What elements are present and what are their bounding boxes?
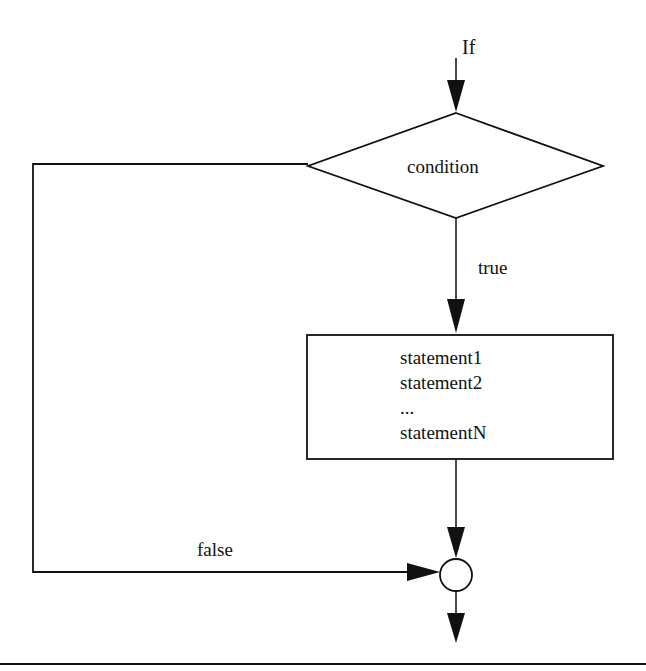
statement-line: ... (400, 395, 487, 420)
statement-line: statementN (400, 420, 487, 445)
statement-line: statement2 (400, 370, 487, 395)
true-label: true (478, 258, 508, 277)
condition-label: condition (407, 157, 479, 176)
exit-arrow (447, 591, 465, 643)
false-path (33, 164, 440, 581)
statements-list: statement1 statement2 ... statementN (400, 345, 487, 445)
flowchart-canvas (0, 0, 646, 671)
box-to-junction-arrow (447, 459, 465, 558)
statement-line: statement1 (400, 345, 487, 370)
true-arrow (447, 218, 465, 333)
entry-arrow (447, 58, 465, 112)
false-label: false (197, 540, 233, 559)
entry-label: If (462, 37, 475, 57)
junction-circle (440, 559, 472, 591)
